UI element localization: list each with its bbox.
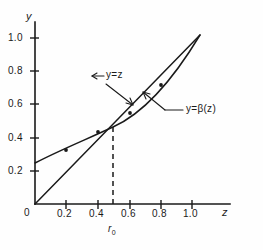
x-tick-label-1.0: 1.0 bbox=[183, 209, 198, 219]
x-tick-label-0.2: 0.2 bbox=[57, 209, 72, 219]
data-point-marker bbox=[128, 111, 132, 115]
data-point-marker bbox=[96, 130, 100, 134]
y-tick-label-1.0: 1.0 bbox=[8, 33, 23, 43]
data-point-marker bbox=[64, 148, 68, 152]
x-axis-label: z bbox=[222, 207, 228, 218]
y-axis-label: y bbox=[26, 11, 32, 22]
y-tick-label-0.8: 0.8 bbox=[8, 66, 23, 76]
data-point-marker bbox=[159, 83, 163, 87]
identity-line-y-equals-z bbox=[35, 35, 200, 204]
identity-line-label: y=z bbox=[106, 70, 123, 80]
y-tick-label-0.4: 0.4 bbox=[8, 133, 23, 143]
fixed-point-label-subscript: 0 bbox=[112, 229, 116, 236]
y-tick-label-0.6: 0.6 bbox=[8, 99, 23, 109]
identity-line-label-arrowhead bbox=[92, 73, 104, 79]
beta-curve bbox=[35, 35, 200, 163]
x-tick-label-0.4: 0.4 bbox=[89, 209, 104, 219]
fixed-point-label: r0 bbox=[108, 224, 116, 236]
y-tick-label-0.2: 0.2 bbox=[8, 166, 23, 176]
origin-label: 0 bbox=[24, 208, 30, 218]
identity-line-leader-arrow bbox=[106, 84, 133, 105]
figure-container: 1.0 0.8 0.6 0.4 0.2 0 0.2 0.4 0.6 0.8 1.… bbox=[0, 0, 263, 250]
beta-curve-label: y=β(z) bbox=[186, 104, 216, 114]
x-tick-label-0.6: 0.6 bbox=[121, 209, 136, 219]
x-tick-label-0.8: 0.8 bbox=[152, 209, 167, 219]
